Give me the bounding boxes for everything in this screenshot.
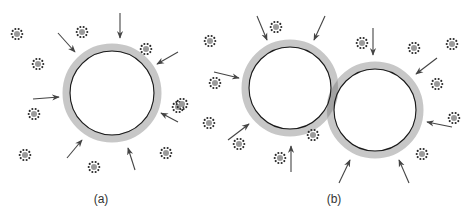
adsorbed-layer-group — [67, 48, 158, 139]
surfactant-micelle-icon — [32, 58, 45, 70]
diffusion-arrow-icon — [214, 72, 239, 78]
diffusion-arrow-icon — [33, 97, 59, 99]
adsorbed-surfactant-layer — [246, 44, 335, 133]
diffusion-arrow-icon — [416, 58, 437, 74]
droplet-interface — [249, 47, 331, 129]
surfactant-micelle-icon — [76, 26, 89, 38]
diffusion-arrow-icon — [128, 148, 135, 170]
diffusion-arrow-icon — [427, 122, 452, 127]
surfactant-micelle-icon — [11, 28, 24, 40]
surfactant-micelle-icon — [408, 42, 421, 54]
surfactant-micelle-icon — [270, 21, 283, 33]
surfactant-micelle-icon — [356, 37, 369, 49]
surfactant-micelle-icon — [88, 161, 101, 173]
diffusion-arrow-icon — [228, 124, 249, 140]
surfactant-micelle-icon — [233, 138, 246, 150]
panel-a-label: (a) — [94, 192, 109, 206]
surfactant-micelle-icon — [203, 117, 216, 129]
droplet-interface — [334, 69, 416, 151]
surfactant-micelle-icon — [446, 38, 459, 50]
diffusion-arrow-icon — [157, 52, 178, 64]
surfactant-micelle-icon — [209, 77, 222, 89]
diffusion-arrow-icon — [257, 16, 267, 40]
adsorbed-surfactant-layer — [67, 48, 158, 139]
droplet-interface — [70, 51, 154, 135]
adsorbed-surfactant-layer — [331, 66, 420, 155]
droplet-coalescence-figure: (a) (b) — [0, 0, 471, 215]
diffusion-arrow-icon — [67, 140, 82, 158]
surfactant-micelle-icon — [140, 43, 153, 55]
diffusion-arrow-icon — [339, 160, 350, 183]
surfactant-micelle-icon — [204, 35, 217, 47]
panel-b-two-droplets-merging — [176, 16, 461, 183]
diagram-canvas — [0, 0, 471, 215]
surfactant-micelle-icon — [431, 78, 444, 90]
diffusion-arrow-icon — [314, 16, 325, 40]
surfactant-micelle-icon — [160, 147, 173, 159]
panel-b-label: (b) — [327, 192, 342, 206]
diffusion-arrow-icon — [399, 160, 409, 183]
diffusion-arrow-icon — [161, 113, 178, 122]
surfactant-micelle-icon — [274, 152, 287, 164]
surfactant-micelle-icon — [448, 112, 461, 124]
surfactant-micelle-icon — [28, 108, 41, 120]
diffusion-arrow-icon — [58, 33, 75, 52]
panel-a-single-droplet — [11, 13, 185, 173]
surfactant-micelle-icon — [416, 148, 429, 160]
surfactant-micelle-icon — [19, 149, 32, 161]
